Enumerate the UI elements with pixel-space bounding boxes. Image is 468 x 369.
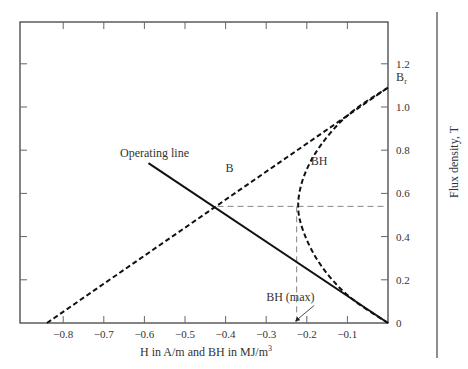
annotations-group: Operating lineBBHBH (max)Br (120, 70, 407, 321)
y-tick-label: 1.0 (396, 101, 410, 113)
annotation-label: BH (max) (266, 290, 314, 304)
x-axis-label-superscript: 3 (268, 344, 272, 353)
annotation-text: B (226, 161, 234, 175)
x-tick-label: −0.4 (216, 328, 236, 340)
x-axis-label: H in A/m and BH in MJ/m3 (140, 344, 272, 359)
y-tick-label: 0.8 (396, 144, 410, 156)
y-tick-label: 0.6 (396, 187, 410, 199)
series-bh (298, 88, 388, 323)
y-tick-label: 0.4 (396, 231, 410, 243)
x-tick-label: −0.3 (256, 328, 276, 340)
y-tick-label: 0.2 (396, 274, 410, 286)
annotation-text: B (396, 70, 404, 84)
annotation-label: Br (396, 70, 407, 86)
x-tick-label: −0.7 (94, 328, 114, 340)
annotation-subscript: r (404, 77, 407, 86)
y-tick-label: 1.2 (396, 58, 410, 70)
y-axis-label: Flux density, T (447, 125, 461, 198)
y-ticks: 00.20.40.60.81.01.2 (20, 58, 410, 329)
x-tick-label: −0.5 (175, 328, 195, 340)
series-group (47, 88, 388, 323)
annotation-text: BH (311, 154, 328, 168)
x-tick-label: −0.6 (134, 328, 154, 340)
annotation-label: B (226, 161, 234, 175)
annotation-text: BH (max) (266, 290, 314, 304)
x-tick-label: −0.2 (297, 328, 317, 340)
y-tick-label: 0 (396, 317, 402, 329)
x-tick-label: −0.1 (337, 328, 357, 340)
annotation-label: Operating line (120, 146, 189, 160)
annotation-label: BH (311, 154, 328, 168)
chart: −0.8−0.7−0.6−0.5−0.4−0.3−0.2−0.1 00.20.4… (0, 0, 468, 369)
annotation-arrow (296, 305, 315, 321)
annotation-text: Operating line (120, 146, 189, 160)
x-tick-label: −0.8 (53, 328, 73, 340)
plot-frame (20, 22, 388, 323)
